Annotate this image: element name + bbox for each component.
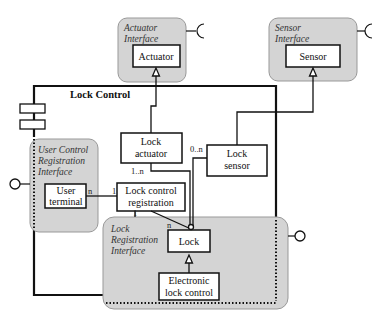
lock-label: Lock xyxy=(179,236,200,247)
lock-actuator-class: Lock actuator xyxy=(121,133,182,163)
required-interface-socket-icon xyxy=(365,24,372,38)
user-control-label-1: User Control xyxy=(38,145,88,155)
lock-registration-label-3: Interface xyxy=(110,246,145,256)
multiplicity-label: 1..n xyxy=(131,166,145,176)
required-interface-socket-icon xyxy=(197,24,204,38)
lock-actuator-label-2: actuator xyxy=(135,148,168,159)
multiplicity-label: 1 xyxy=(133,208,137,218)
user-control-label-3: Interface xyxy=(37,167,72,177)
lock-sensor-label-1: Lock xyxy=(227,148,248,159)
lock-control-registration-label-2: registration xyxy=(128,197,174,208)
multiplicity-label: 1 xyxy=(112,186,116,196)
electronic-lock-control-class: Electronic lock control xyxy=(159,273,219,300)
actuator-interface: Actuator Interface Actuator xyxy=(118,18,204,82)
sensor-class: Sensor xyxy=(299,51,327,62)
electronic-lock-control-label-1: Electronic xyxy=(168,275,210,286)
lock-class: Lock xyxy=(168,230,210,252)
component-title: Lock Control xyxy=(70,89,130,100)
sensor-interface: Sensor Interface Sensor xyxy=(269,18,372,81)
lock-registration-label-1: Lock xyxy=(110,224,130,234)
user-terminal-label-1: User xyxy=(57,185,77,196)
lock-actuator-label-1: Lock xyxy=(141,136,162,147)
user-terminal-label-2: terminal xyxy=(49,196,83,207)
provided-interface-lollipop-icon xyxy=(295,231,305,241)
sensor-interface-label: Sensor xyxy=(275,23,301,33)
actuator-interface-label-2: Interface xyxy=(123,34,158,44)
user-control-label-2: Registration xyxy=(37,156,85,166)
lock-sensor-class: Lock sensor xyxy=(207,145,267,176)
component-diagram: Actuator Interface Actuator Sensor Inter… xyxy=(0,0,374,323)
electronic-lock-control-label-2: lock control xyxy=(165,287,213,298)
user-control-registration-interface: User Control Registration Interface User… xyxy=(10,139,98,232)
actuator-class: Actuator xyxy=(139,51,175,62)
multiplicity-label: 0..n xyxy=(190,144,204,154)
lock-control-registration-label-1: Lock control xyxy=(125,185,177,196)
component-icon-tab-2 xyxy=(20,120,45,129)
actuator-interface-label: Actuator xyxy=(123,23,158,33)
lock-sensor-label-2: sensor xyxy=(224,160,250,171)
lock-registration-label-2: Registration xyxy=(110,235,158,245)
sensor-interface-label-2: Interface xyxy=(274,34,309,44)
provided-interface-lollipop-icon xyxy=(10,179,20,189)
lock-control-registration-class: Lock control registration xyxy=(117,183,185,211)
component-icon-tab-1 xyxy=(20,104,45,113)
